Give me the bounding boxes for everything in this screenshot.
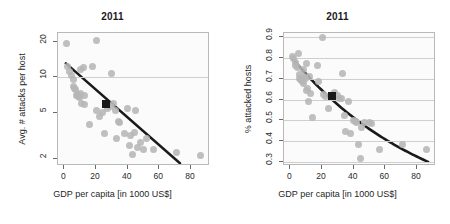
data-point bbox=[89, 63, 96, 70]
y-tick-text: 2 bbox=[38, 154, 48, 159]
data-point bbox=[319, 34, 326, 41]
x-tick-label: 0 bbox=[49, 171, 77, 181]
right-panel-title: 2011 bbox=[225, 11, 450, 22]
data-point bbox=[131, 129, 138, 136]
data-point bbox=[357, 155, 364, 162]
data-point bbox=[110, 100, 117, 107]
data-point bbox=[347, 130, 354, 137]
y-tick-mark bbox=[279, 57, 283, 58]
data-point bbox=[86, 121, 93, 128]
y-tick-label: 0.7 bbox=[259, 71, 279, 81]
data-point bbox=[93, 37, 100, 44]
y-tick-mark bbox=[53, 158, 57, 159]
y-tick-text: 0.7 bbox=[264, 70, 274, 82]
data-point bbox=[339, 70, 346, 77]
data-point bbox=[150, 146, 157, 153]
x-tick-mark bbox=[353, 165, 354, 169]
data-point bbox=[338, 95, 345, 102]
x-tick-label: 20 bbox=[81, 171, 109, 181]
data-point bbox=[368, 120, 375, 127]
two-panel-scatter-figure: 2011 Avg. # attacks per host GDP per cap… bbox=[0, 0, 450, 224]
y-tick-text: 0.5 bbox=[264, 111, 274, 123]
y-tick-text: 20 bbox=[38, 35, 48, 44]
y-tick-text: 5 bbox=[38, 107, 48, 112]
y-tick-text: 0.3 bbox=[264, 153, 274, 165]
x-tick-mark bbox=[127, 165, 128, 169]
highlight-marker bbox=[328, 92, 336, 100]
y-tick-text: 0.6 bbox=[264, 91, 274, 103]
data-point bbox=[376, 146, 383, 153]
x-tick-label: 60 bbox=[370, 171, 398, 181]
data-point bbox=[345, 98, 352, 105]
y-tick-label: 0.8 bbox=[259, 50, 279, 60]
x-tick-label: 40 bbox=[113, 171, 141, 181]
data-point bbox=[399, 141, 406, 148]
data-point bbox=[112, 107, 119, 114]
data-point bbox=[113, 135, 120, 142]
right-panel: 2011 % attacked hosts GDP per capita [in… bbox=[225, 0, 450, 224]
gridline bbox=[58, 77, 208, 78]
right-plot-area bbox=[283, 32, 435, 165]
data-point bbox=[70, 76, 77, 83]
gridline bbox=[284, 162, 434, 163]
x-tick-mark bbox=[416, 165, 417, 169]
y-tick-label: 0.4 bbox=[259, 133, 279, 143]
y-tick-label: 0.6 bbox=[259, 92, 279, 102]
y-tick-mark bbox=[53, 76, 57, 77]
y-tick-text: 10 bbox=[38, 70, 48, 79]
x-tick-mark bbox=[289, 165, 290, 169]
data-point bbox=[309, 114, 316, 121]
y-tick-mark bbox=[279, 140, 283, 141]
y-tick-label: 0.5 bbox=[259, 112, 279, 122]
gridline bbox=[284, 37, 434, 38]
x-tick-mark bbox=[321, 165, 322, 169]
left-x-axis-title: GDP per capita [in 1000 US$] bbox=[0, 189, 225, 199]
x-tick-label: 80 bbox=[176, 171, 204, 181]
data-point bbox=[63, 40, 70, 47]
x-tick-mark bbox=[63, 165, 64, 169]
data-point bbox=[295, 50, 302, 57]
x-tick-label: 40 bbox=[339, 171, 367, 181]
data-point bbox=[355, 141, 362, 148]
x-tick-mark bbox=[190, 165, 191, 169]
data-point bbox=[305, 98, 312, 105]
data-point bbox=[423, 146, 430, 153]
x-tick-mark bbox=[95, 165, 96, 169]
y-tick-label: 5 bbox=[33, 105, 53, 115]
y-tick-text: 0.8 bbox=[264, 49, 274, 61]
x-tick-label: 0 bbox=[275, 171, 303, 181]
data-point bbox=[307, 90, 314, 97]
data-point bbox=[314, 62, 321, 69]
y-tick-text: 0.4 bbox=[264, 132, 274, 144]
data-point bbox=[300, 66, 307, 73]
data-point bbox=[80, 64, 87, 71]
data-point bbox=[81, 101, 88, 108]
y-tick-mark bbox=[53, 112, 57, 113]
data-point bbox=[108, 70, 115, 77]
x-tick-mark bbox=[158, 165, 159, 169]
right-x-axis-title: GDP per capita [in 1000 US$] bbox=[225, 189, 450, 199]
left-panel-title: 2011 bbox=[0, 11, 225, 22]
data-point bbox=[140, 146, 147, 153]
y-tick-label: 0.9 bbox=[259, 29, 279, 39]
left-plot-area bbox=[57, 32, 209, 165]
data-point bbox=[132, 107, 139, 114]
y-tick-label: 20 bbox=[33, 34, 53, 44]
data-point bbox=[124, 105, 131, 112]
data-point bbox=[197, 152, 204, 159]
y-tick-text: 0.9 bbox=[264, 28, 274, 40]
y-tick-mark bbox=[53, 41, 57, 42]
data-point bbox=[81, 92, 88, 99]
data-point bbox=[126, 142, 133, 149]
y-tick-label: 10 bbox=[33, 69, 53, 79]
x-tick-label: 20 bbox=[307, 171, 335, 181]
x-tick-label: 80 bbox=[402, 171, 430, 181]
highlight-marker bbox=[102, 100, 110, 108]
data-point bbox=[129, 151, 136, 158]
data-point bbox=[303, 60, 310, 67]
data-point bbox=[143, 135, 150, 142]
data-point bbox=[325, 105, 332, 112]
x-tick-mark bbox=[384, 165, 385, 169]
y-tick-mark bbox=[279, 36, 283, 37]
data-point bbox=[101, 130, 108, 137]
